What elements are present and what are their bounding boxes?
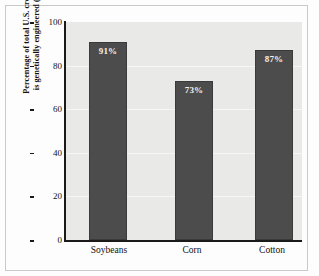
y-tick-label-20: 20 [36, 192, 62, 201]
x-label-corn: Corn [152, 245, 232, 256]
y-tick-label-60: 60 [36, 105, 62, 114]
y-tick-mark-20 [30, 196, 34, 198]
bar-value-soybeans: 91% [90, 46, 126, 56]
x-label-cotton: Cotton [232, 245, 312, 256]
bar-value-corn: 73% [176, 85, 212, 95]
y-tick-mark-60 [30, 109, 34, 111]
bar-value-cotton: 87% [256, 54, 292, 64]
figure-container: Percentage of total U.S. crop that is ge… [0, 0, 319, 276]
y-tick-mark-100 [30, 22, 34, 24]
y-axis-ticks: 100 80 60 40 20 0 [30, 0, 62, 276]
plot-area: 91% 73% 87% [66, 22, 302, 240]
y-axis-line [64, 21, 66, 241]
bar-cotton[interactable]: 87% [255, 50, 293, 240]
y-tick-label-100: 100 [36, 18, 62, 27]
bar-soybeans[interactable]: 91% [89, 42, 127, 240]
y-tick-label-0: 0 [36, 236, 62, 245]
y-tick-mark-0 [30, 240, 34, 242]
y-tick-label-80: 80 [36, 62, 62, 71]
x-label-soybeans: Soybeans [64, 245, 154, 256]
bar-corn[interactable]: 73% [175, 81, 213, 240]
y-tick-mark-40 [30, 153, 34, 155]
y-tick-mark-80 [30, 66, 34, 68]
x-axis-line [64, 240, 302, 242]
y-tick-label-40: 40 [36, 149, 62, 158]
